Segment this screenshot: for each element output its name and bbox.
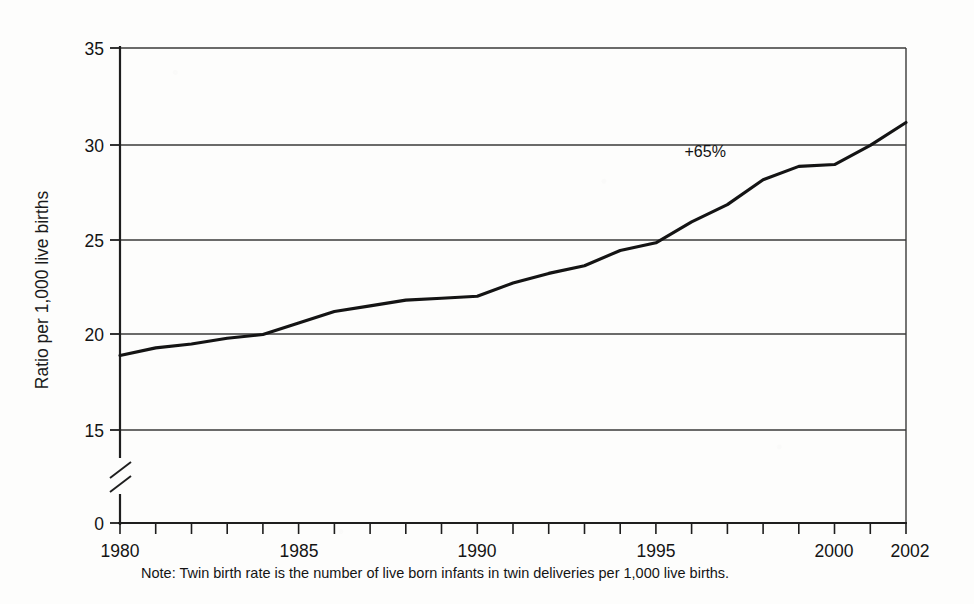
- x-tick-label-2000: 2000: [815, 541, 854, 561]
- x-tick-labels: 1980 1985 1990 1995 2000 2002: [101, 541, 930, 561]
- x-tick-label-1995: 1995: [637, 541, 676, 561]
- y-tick-labels: 35 30 25 20 15 0: [85, 39, 105, 534]
- y-tick-label-25: 25: [85, 231, 104, 251]
- chart-figure: Ratio per 1,000 live births 35 30: [0, 0, 974, 604]
- y-tick-label-30: 30: [85, 136, 105, 156]
- y-tick-label-15: 15: [85, 421, 104, 441]
- y-axis-title: Ratio per 1,000 live births: [32, 191, 52, 390]
- twin-birth-rate-line-chart: Ratio per 1,000 live births 35 30: [0, 0, 974, 604]
- chart-footnote: Note: Twin birth rate is the number of l…: [141, 565, 729, 581]
- twin-birth-rate-series-line: [120, 122, 906, 355]
- x-tick-marks: [120, 523, 906, 534]
- y-axis-break-icon: [110, 458, 131, 494]
- y-tick-label-35: 35: [85, 39, 104, 59]
- y-tick-marks: [110, 48, 120, 523]
- x-tick-label-1985: 1985: [280, 541, 319, 561]
- gridlines: [120, 48, 906, 430]
- y-tick-label-20: 20: [85, 325, 105, 345]
- percent-change-annotation: +65%: [685, 143, 726, 160]
- x-tick-label-1980: 1980: [101, 541, 140, 561]
- x-tick-label-1990: 1990: [458, 541, 497, 561]
- y-tick-label-0: 0: [94, 514, 104, 534]
- x-tick-label-2002: 2002: [891, 541, 930, 561]
